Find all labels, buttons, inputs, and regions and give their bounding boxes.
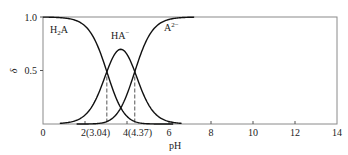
series-label-a2: A2− [164, 21, 179, 33]
plot-frame [43, 17, 337, 124]
curve-ha [60, 49, 182, 123]
x-tick-label-12: 12 [290, 127, 300, 138]
y-axis-title: δ [8, 68, 19, 73]
curve-a2 [77, 17, 195, 124]
y-tick-label-1.0: 1.0 [25, 12, 38, 23]
y-tick-label-0.5: 0.5 [25, 65, 38, 76]
x-tick-label-2: 2(3.04) [81, 127, 110, 139]
series-label-ha: HA− [111, 29, 129, 41]
distribution-chart: 1.0 0.5 δ 02(3.04)4(4.37)68101214 pH H2A… [0, 0, 348, 155]
x-tick-label-14: 14 [332, 127, 342, 138]
series-label-h2a: H2A [50, 24, 69, 37]
x-tick-label-8: 8 [209, 127, 214, 138]
x-tick-label-10: 10 [248, 127, 258, 138]
x-tick-label-6: 6 [167, 127, 172, 138]
x-tick-label-4: 4(4.37) [123, 127, 152, 139]
x-tick-label-0: 0 [41, 127, 46, 138]
pka-dashed-lines [107, 71, 135, 125]
x-axis-title: pH [169, 140, 181, 151]
